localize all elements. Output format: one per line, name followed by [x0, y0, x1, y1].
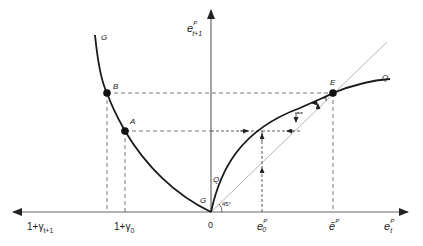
label-B: B: [113, 82, 119, 91]
tick-gamma0: 1+γ0: [114, 221, 134, 234]
dashed-guides: [107, 93, 333, 212]
label-Q-start: Q: [213, 175, 219, 184]
label-Q-end: Q: [382, 73, 388, 82]
label-E: E: [330, 78, 336, 87]
diagonal-45-line: [211, 42, 387, 212]
Q-curve: [211, 79, 390, 212]
label-angle: 45°: [222, 201, 232, 207]
horizontal-axis-left-label: 1+γt+1: [27, 221, 53, 234]
label-G-top: G: [101, 33, 107, 42]
label-A: A: [129, 117, 135, 126]
vertical-axis-label: ePt+1: [187, 20, 202, 37]
origin-label: 0: [208, 220, 213, 230]
point-B: [103, 89, 111, 97]
label-G-bottom: G: [200, 196, 206, 205]
tick-e0: eP0: [257, 218, 267, 233]
diagram-canvas: G B A E Q Q G 45° ePt+1 0 eP0 ēP ePt 1+γ…: [0, 0, 423, 246]
point-E: [329, 89, 337, 97]
G-curve: [95, 35, 211, 212]
horizontal-axis-right-label: ePt: [384, 218, 394, 234]
tick-ebar: ēP: [329, 218, 339, 232]
point-A: [121, 127, 129, 135]
